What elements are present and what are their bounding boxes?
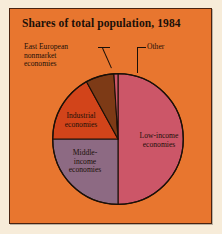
page-title: Shares of total population, 1984 — [22, 17, 181, 29]
slice-label-low-income: Low-income economies — [126, 132, 192, 149]
figure-page: Shares of total population, 1984 East Eu… — [0, 0, 222, 234]
leader-line-east-european — [98, 47, 110, 48]
slice-callout-other: Other — [147, 43, 164, 52]
chart-panel: Shares of total population, 1984 East Eu… — [9, 8, 212, 224]
leader-line-other-horizontal — [137, 47, 146, 48]
slice-label-middle-income: Middle- income economies — [56, 149, 114, 175]
leader-line-other-vertical — [137, 47, 138, 73]
slice-callout-east-european: East European nonmarket economies — [24, 43, 68, 69]
slice-label-industrial: Industrial economies — [50, 112, 112, 129]
leader-line-east-european-diagonal — [102, 48, 112, 69]
